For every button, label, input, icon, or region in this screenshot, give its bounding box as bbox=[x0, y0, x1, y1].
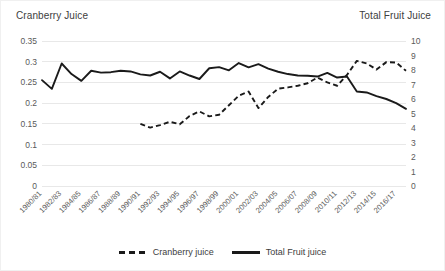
svg-text:7: 7 bbox=[411, 80, 416, 90]
svg-text:6: 6 bbox=[411, 94, 416, 104]
svg-text:0.3: 0.3 bbox=[25, 57, 37, 67]
right-axis-tick-labels: 012345678910 bbox=[411, 36, 421, 191]
svg-text:2: 2 bbox=[411, 152, 416, 162]
left-axis-tick-labels: 00.050.10.150.20.250.30.35 bbox=[20, 36, 37, 191]
svg-text:0: 0 bbox=[411, 181, 416, 191]
gridlines bbox=[42, 41, 406, 186]
svg-text:1: 1 bbox=[411, 167, 416, 177]
svg-text:5: 5 bbox=[411, 109, 416, 119]
solid-line-swatch-icon bbox=[232, 251, 260, 254]
dashed-line-swatch-icon bbox=[119, 251, 147, 254]
svg-text:10: 10 bbox=[411, 36, 421, 46]
legend-label-total-fruit-juice: Total Fruit juice bbox=[266, 247, 327, 257]
legend-item-cranberry-juice[interactable]: Cranberry juice bbox=[119, 247, 214, 257]
svg-text:8: 8 bbox=[411, 65, 416, 75]
chart-legend: Cranberry juice Total Fruit juice bbox=[0, 247, 445, 257]
legend-label-cranberry-juice: Cranberry juice bbox=[153, 247, 214, 257]
svg-text:4: 4 bbox=[411, 123, 416, 133]
svg-text:0.35: 0.35 bbox=[20, 36, 37, 46]
plot-area: 00.050.10.150.20.250.30.35 012345678910 … bbox=[0, 0, 445, 271]
chart-container: Cranberry Juice Total Fruit Juice 00.050… bbox=[0, 0, 445, 271]
x-axis-tick-labels: 1980/811982/831984/851986/871988/891990/… bbox=[18, 189, 398, 215]
svg-text:3: 3 bbox=[411, 138, 416, 148]
svg-text:2016/17: 2016/17 bbox=[372, 189, 398, 215]
svg-text:0.25: 0.25 bbox=[20, 77, 37, 87]
svg-text:9: 9 bbox=[411, 51, 416, 61]
svg-text:0.05: 0.05 bbox=[20, 160, 37, 170]
svg-text:0.1: 0.1 bbox=[25, 140, 37, 150]
legend-item-total-fruit-juice[interactable]: Total Fruit juice bbox=[232, 247, 327, 257]
svg-text:0.2: 0.2 bbox=[25, 98, 37, 108]
svg-text:0.15: 0.15 bbox=[20, 119, 37, 129]
